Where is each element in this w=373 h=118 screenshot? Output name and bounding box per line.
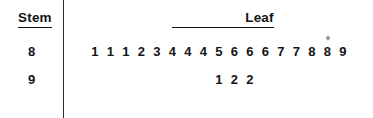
leaf-digit: 1 [211,72,227,87]
leaf-row: 11123444566677889 [63,44,373,64]
leaf-digit: 3 [149,44,165,59]
leaf-digit: 1 [87,44,103,59]
leaf-digit: 2 [227,72,243,87]
leaf-digit: 4 [196,44,212,59]
leaf-digit: 8 [304,44,320,59]
leaf-digit: 6 [258,44,274,59]
leaf-digit: 5 [211,44,227,59]
scan-artifact-speck [325,35,330,40]
leaf-digit: 8 [320,44,336,59]
leaf-digit: 1 [103,44,119,59]
leaf-digit: 1 [118,44,134,59]
leaf-row: 122 [63,72,373,92]
leaf-digit: 4 [180,44,196,59]
stem-value: 9 [0,72,63,87]
leaf-digit: 9 [335,44,351,59]
leaf-digit: 2 [134,44,150,59]
leaf-digit: 7 [289,44,305,59]
stem-value: 8 [0,44,63,59]
leaf-digit: 4 [165,44,181,59]
leaf-digit: 2 [242,72,258,87]
leaf-digit: 6 [227,44,243,59]
leaf-digit: 6 [242,44,258,59]
stem-and-leaf-plot: Stem Leaf 8 9 11123444566677889 122 [0,0,373,118]
leaf-digit: 7 [273,44,289,59]
column-header-leaf-label: Leaf [172,10,274,28]
column-header-leaf: Leaf [0,10,373,28]
